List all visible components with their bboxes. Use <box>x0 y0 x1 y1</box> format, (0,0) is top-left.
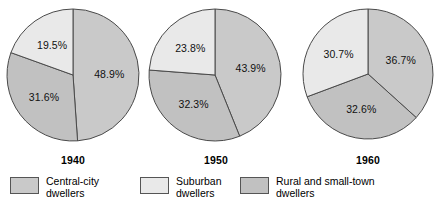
pie-year-label-1950: 1950 <box>143 154 289 166</box>
legend-label-suburban: Suburban dwellers <box>176 176 222 199</box>
legend-label-line1: Rural and small-town <box>276 176 375 188</box>
pie-slice-label: 31.6% <box>29 91 59 103</box>
pie-slice-label: 19.5% <box>37 39 67 51</box>
legend-label-central-city: Central-city dwellers <box>46 176 99 199</box>
legend-label-line2: dwellers <box>276 188 375 200</box>
pie-chart-1940: 1940 48.9%31.6%19.5% <box>0 0 146 168</box>
pie-slice-label: 48.9% <box>94 68 124 80</box>
pie-slice-label: 36.7% <box>386 54 416 66</box>
pie-chart-1960: 1960 36.7%32.6%30.7% <box>295 0 438 168</box>
legend-swatch-rural <box>240 177 269 194</box>
pie-slice-label: 43.9% <box>235 62 265 74</box>
legend-label-line1: Suburban <box>176 176 222 188</box>
legend: Central-city dwellers Suburban dwellers … <box>0 170 438 215</box>
pie-chart-1950: 1950 43.9%32.3%23.8% <box>143 0 289 168</box>
legend-item-suburban: Suburban dwellers <box>140 176 222 199</box>
pie-slice-label: 32.3% <box>178 98 208 110</box>
legend-label-rural: Rural and small-town dwellers <box>276 176 375 199</box>
pie-charts-row: 1940 48.9%31.6%19.5% 1950 43.9%32.3%23.8… <box>0 0 438 168</box>
legend-label-line2: dwellers <box>176 188 222 200</box>
legend-swatch-suburban <box>140 177 169 194</box>
legend-label-line2: dwellers <box>46 188 99 200</box>
legend-label-line1: Central-city <box>46 176 99 188</box>
pie-svg-1950 <box>143 0 289 150</box>
pie-year-label-1960: 1960 <box>295 154 438 166</box>
pie-slice-label: 32.6% <box>346 103 376 115</box>
legend-item-central-city: Central-city dwellers <box>10 176 99 199</box>
legend-item-rural: Rural and small-town dwellers <box>240 176 375 199</box>
legend-swatch-central-city <box>10 177 39 194</box>
pie-year-label-1940: 1940 <box>0 154 146 166</box>
pie-slice-label: 23.8% <box>175 42 205 54</box>
pie-chart-figure: 1940 48.9%31.6%19.5% 1950 43.9%32.3%23.8… <box>0 0 438 215</box>
pie-slice-label: 30.7% <box>323 48 353 60</box>
pie-svg-1960 <box>295 0 438 150</box>
